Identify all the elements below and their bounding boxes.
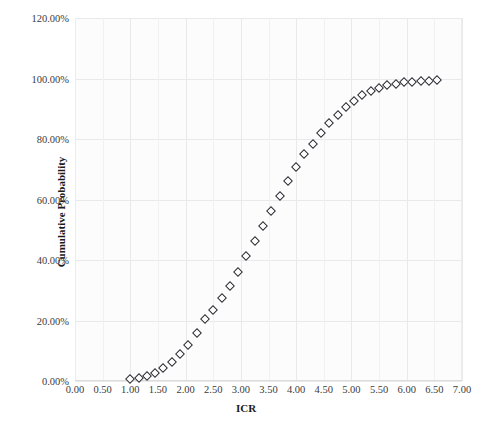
- gridline-vertical: [241, 18, 242, 381]
- gridline-vertical: [130, 18, 131, 381]
- y-axis-title-wrapper: Cumulative Probability: [8, 0, 28, 424]
- x-axis-title-wrapper: ICR: [0, 402, 478, 414]
- y-axis-tick-label: 120.00%: [0, 13, 75, 24]
- gridline-vertical: [296, 18, 297, 381]
- gridline-vertical: [158, 18, 159, 381]
- y-axis-tick-label: 100.00%: [0, 73, 75, 84]
- gridline-vertical: [379, 18, 380, 381]
- gridline-horizontal: [75, 381, 462, 382]
- gridline-vertical: [351, 18, 352, 381]
- gridline-vertical: [324, 18, 325, 381]
- y-axis-tick-label: 40.00%: [0, 255, 75, 266]
- axis-right: [461, 18, 462, 381]
- gridline-vertical: [434, 18, 435, 381]
- gridline-vertical: [186, 18, 187, 381]
- y-axis-tick-label: 60.00%: [0, 194, 75, 205]
- chart-container: Cumulative Probability 0.00%20.00%40.00%…: [0, 0, 478, 424]
- x-axis-tick-label: 7.00: [442, 384, 478, 395]
- gridline-vertical: [407, 18, 408, 381]
- y-axis-tick-label: 20.00%: [0, 315, 75, 326]
- gridline-vertical: [269, 18, 270, 381]
- gridline-vertical: [103, 18, 104, 381]
- y-axis-title: Cumulative Probability: [55, 157, 67, 268]
- y-axis-tick-label: 80.00%: [0, 134, 75, 145]
- plot-area: [75, 18, 462, 381]
- axis-left: [75, 18, 76, 381]
- x-axis-title: ICR: [236, 402, 256, 414]
- gridline-vertical: [462, 18, 463, 381]
- gridline-vertical: [213, 18, 214, 381]
